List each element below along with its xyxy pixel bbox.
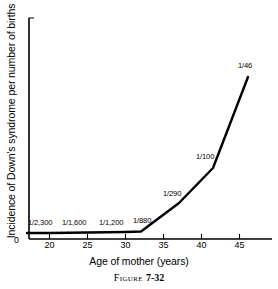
x-tick-label-25: 25 bbox=[76, 241, 100, 250]
figure-caption: Figure 7-32 bbox=[0, 272, 278, 283]
incidence-line-series bbox=[27, 77, 248, 233]
figure-caption-prefix: Figure bbox=[114, 272, 143, 283]
figure-caption-number: 7-32 bbox=[146, 272, 164, 283]
x-tick-label-40: 40 bbox=[190, 241, 214, 250]
axis-origin-zero: 0 bbox=[14, 236, 19, 245]
x-tick-label-45: 45 bbox=[228, 241, 252, 250]
point-label-1-1600: 1/1,600 bbox=[62, 219, 86, 227]
x-tick-label-30: 30 bbox=[114, 241, 138, 250]
x-axis-title: Age of mother (years) bbox=[0, 255, 278, 267]
point-label-1-46: 1/46 bbox=[238, 62, 252, 70]
x-tick-label-20: 20 bbox=[38, 241, 62, 250]
figure-container: Incidence of Down's syndrome per number … bbox=[0, 0, 278, 289]
point-label-1-2300: 1/2,300 bbox=[28, 219, 52, 227]
point-label-1-880: 1/880 bbox=[133, 217, 151, 225]
point-label-1-290: 1/290 bbox=[163, 190, 181, 198]
x-tick-label-35: 35 bbox=[152, 241, 176, 250]
y-axis-title: Incidence of Down's syndrome per number … bbox=[6, 8, 17, 238]
x-axis-ticks bbox=[50, 234, 240, 239]
point-label-1-1200: 1/1,200 bbox=[99, 219, 123, 227]
point-label-1-100: 1/100 bbox=[196, 153, 214, 161]
